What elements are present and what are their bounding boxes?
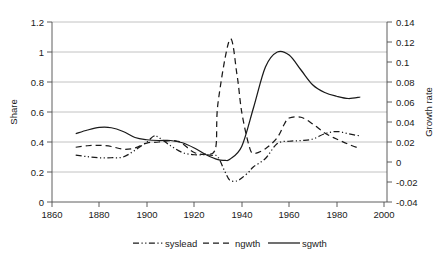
legend-label-syslead: syslead: [165, 238, 197, 249]
y-axis-left-labels: 1.2 1 0.8 0.6 0.4 0.2 0: [31, 17, 44, 208]
xtick-label: 1920: [183, 209, 204, 220]
legend-label-ngwth: ngwth: [235, 238, 260, 249]
xtick-label: 1980: [326, 209, 347, 220]
legend: syslead ngwth sgwth: [133, 238, 327, 249]
ytick-label: 1: [39, 47, 44, 58]
ytick-label: 0: [39, 197, 44, 208]
xtick-label: 1960: [278, 209, 299, 220]
y2tick-label: 0.14: [396, 17, 415, 28]
ytick-label: 0.6: [31, 107, 44, 118]
y2tick-label: 0.06: [396, 97, 415, 108]
y2tick-label: 0.1: [396, 57, 409, 68]
y-axis-left-ticks: [47, 22, 52, 202]
y-axis-title: Share: [8, 99, 19, 124]
legend-label-sgwth: sgwth: [302, 238, 327, 249]
y2tick-label: 0.02: [396, 137, 415, 148]
y2tick-label: -0.04: [396, 197, 418, 208]
y2tick-label: 0: [396, 157, 401, 168]
xtick-label: 1900: [136, 209, 157, 220]
y2tick-label: -0.02: [396, 177, 418, 188]
chart-container: 1.2 1 0.8 0.6 0.4 0.2 0 0.14 0.12 0.1 0.…: [0, 0, 446, 261]
y-axis-right-labels: 0.14 0.12 0.1 0.08 0.06 0.04 0.02 0 -0.0…: [396, 17, 418, 208]
y2tick-label: 0.12: [396, 37, 415, 48]
y2-axis-title: Growth rate: [423, 87, 434, 137]
y-axis-right-ticks: [387, 22, 392, 202]
xtick-label: 1940: [231, 209, 252, 220]
ytick-label: 0.2: [31, 167, 44, 178]
x-axis-labels: 1860 1880 1900 1920 1940 1960 1980 2000: [41, 209, 394, 220]
xtick-label: 1880: [88, 209, 109, 220]
ytick-label: 0.4: [31, 137, 44, 148]
y2tick-label: 0.08: [396, 77, 415, 88]
x-axis-ticks: [52, 202, 384, 207]
xtick-label: 1860: [41, 209, 62, 220]
ytick-label: 0.8: [31, 77, 44, 88]
y2tick-label: 0.04: [396, 117, 415, 128]
xtick-label: 2000: [373, 209, 394, 220]
line-chart: 1.2 1 0.8 0.6 0.4 0.2 0 0.14 0.12 0.1 0.…: [0, 0, 446, 261]
ytick-label: 1.2: [31, 17, 44, 28]
